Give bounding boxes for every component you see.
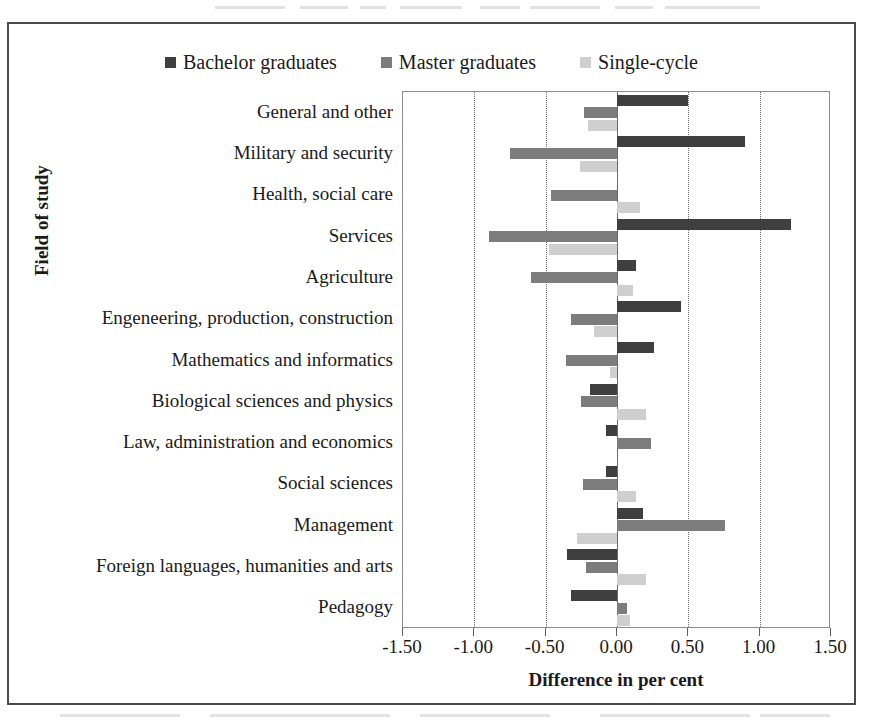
bar-group — [403, 216, 829, 257]
bar — [617, 615, 630, 626]
y-axis-category-label: Foreign languages, humanities and arts — [96, 556, 393, 575]
bar — [617, 508, 643, 519]
x-axis-tick-label: -0.50 — [525, 637, 565, 656]
legend-label-single-cycle: Single-cycle — [598, 52, 698, 72]
scan-speckle — [360, 6, 386, 9]
bar-group — [403, 422, 829, 463]
legend-item-master: Master graduates — [381, 52, 536, 72]
bar-group — [403, 505, 829, 546]
y-axis-category-label: Military and security — [234, 143, 393, 162]
bar — [489, 231, 617, 242]
scan-speckle — [615, 6, 653, 9]
y-axis-category-label: Law, administration and economics — [123, 432, 393, 451]
y-axis-title: Field of study — [31, 165, 53, 276]
bar — [584, 107, 617, 118]
legend-swatch-single-cycle — [580, 57, 591, 68]
scan-speckle — [600, 714, 750, 717]
figure-frame: Bachelor graduates Master graduates Sing… — [7, 22, 856, 705]
bar — [571, 314, 617, 325]
x-axis-tick-labels: -1.50-1.00-0.500.000.501.001.50 — [352, 637, 869, 663]
bar-series-container — [403, 92, 829, 627]
bar-group — [403, 381, 829, 422]
bar — [566, 355, 617, 366]
bar-group — [403, 464, 829, 505]
scan-speckle — [300, 6, 348, 9]
y-axis-category-label: Services — [329, 226, 393, 245]
bar — [617, 409, 646, 420]
bar — [617, 95, 688, 106]
bar — [617, 219, 791, 230]
bar — [617, 285, 633, 296]
y-axis-category-label: General and other — [257, 102, 393, 121]
x-axis-tick — [830, 628, 831, 636]
bar — [617, 301, 681, 312]
bar — [571, 590, 617, 601]
legend-item-single-cycle: Single-cycle — [580, 52, 698, 72]
bar-group — [403, 175, 829, 216]
bar-group — [403, 133, 829, 174]
bar — [510, 148, 617, 159]
bar — [617, 491, 636, 502]
bar — [588, 120, 617, 131]
bar — [586, 562, 617, 573]
bar-group — [403, 299, 829, 340]
bar — [580, 161, 617, 172]
x-axis-tick — [759, 628, 760, 636]
legend-label-bachelor: Bachelor graduates — [183, 52, 337, 72]
bar — [549, 244, 617, 255]
x-axis-title: Difference in per cent — [402, 669, 830, 691]
bar — [551, 190, 617, 201]
x-axis-tick — [616, 628, 617, 636]
x-axis-tick — [402, 628, 403, 636]
scan-artifact-top — [0, 0, 869, 18]
bar — [567, 549, 617, 560]
x-axis-tick-label: -1.00 — [454, 637, 494, 656]
y-axis-category-label: Pedagogy — [318, 597, 393, 616]
x-axis-ticks — [402, 628, 830, 636]
bar-group — [403, 257, 829, 298]
scan-speckle — [210, 714, 390, 717]
y-axis-category-label: Mathematics and informatics — [171, 350, 393, 369]
x-axis-tick-label: 0.50 — [671, 637, 704, 656]
bar — [617, 342, 654, 353]
chart-legend: Bachelor graduates Master graduates Sing… — [9, 52, 854, 72]
bar — [617, 438, 651, 449]
bar — [583, 479, 617, 490]
x-axis-tick — [687, 628, 688, 636]
bar — [617, 260, 636, 271]
x-axis-tick-label: 1.00 — [742, 637, 775, 656]
bar-group — [403, 546, 829, 587]
bar — [617, 136, 745, 147]
legend-swatch-master — [381, 57, 392, 68]
bar — [577, 533, 617, 544]
bar — [606, 466, 617, 477]
scan-speckle — [480, 6, 520, 9]
scan-speckle — [760, 714, 830, 717]
y-axis-category-label: Agriculture — [305, 267, 393, 286]
bar — [617, 603, 627, 614]
bar — [606, 425, 617, 436]
bar — [617, 202, 640, 213]
x-axis-tick-label: 1.50 — [813, 637, 846, 656]
scan-speckle — [60, 714, 180, 717]
legend-item-bachelor: Bachelor graduates — [165, 52, 337, 72]
scan-speckle — [215, 6, 285, 9]
bar-group — [403, 340, 829, 381]
scan-speckle — [420, 714, 550, 717]
y-axis-category-label: Engeneering, production, construction — [102, 308, 393, 327]
y-axis-category-label: Health, social care — [252, 184, 393, 203]
y-axis-category-labels: General and otherMilitary and securityHe… — [69, 91, 399, 628]
bar — [617, 520, 725, 531]
scan-artifact-bottom — [0, 711, 869, 723]
legend-label-master: Master graduates — [399, 52, 536, 72]
y-axis-category-label: Social sciences — [277, 473, 393, 492]
plot-area — [402, 91, 830, 628]
x-axis-tick — [473, 628, 474, 636]
scan-speckle — [665, 6, 760, 9]
y-axis-category-label: Biological sciences and physics — [152, 391, 393, 410]
bar-group — [403, 588, 829, 629]
x-axis-tick — [545, 628, 546, 636]
bar — [610, 367, 617, 378]
bar — [594, 326, 617, 337]
x-axis-tick-label: -1.50 — [382, 637, 422, 656]
